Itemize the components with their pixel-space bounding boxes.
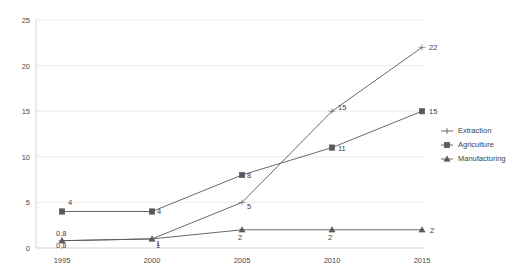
agriculture-point-2000 — [149, 209, 154, 214]
agriculture-label-2015: 15 — [429, 107, 437, 116]
legend-item-agriculture[interactable]: Agriculture — [441, 140, 494, 149]
manufacturing-label-2000: 1 — [156, 241, 160, 250]
y-tick-20: 20 — [22, 62, 30, 71]
agriculture-point-2010 — [329, 145, 334, 150]
legend-label-manufacturing: Manufacturing — [458, 154, 506, 163]
manufacturing-label-1995: 0,8 — [56, 241, 66, 250]
x-tick-2015: 2015 — [414, 256, 431, 265]
series-manufacturing: 0,8 1 2 2 2 — [56, 226, 434, 250]
series-agriculture: 4 4 8 11 15 — [59, 107, 437, 216]
y-tick-5: 5 — [26, 198, 30, 207]
agriculture-point-2015 — [419, 109, 424, 114]
series-extraction: 0,8 1 5 15 22 — [56, 43, 437, 248]
chart-legend: Extraction Agriculture Manufacturing — [441, 126, 506, 163]
chart-canvas: 25 20 15 10 5 0 1995 2000 2005 2010 2015… — [0, 0, 521, 274]
legend-label-extraction: Extraction — [458, 126, 491, 135]
agriculture-label-2005: 8 — [247, 171, 251, 180]
gridlines — [36, 20, 425, 202]
legend-item-manufacturing[interactable]: Manufacturing — [441, 154, 506, 163]
y-tick-10: 10 — [22, 153, 30, 162]
extraction-label-2015: 22 — [429, 43, 437, 52]
y-tick-25: 25 — [22, 16, 30, 25]
agriculture-label-1995: 4 — [68, 198, 72, 207]
agriculture-label-2000: 4 — [157, 207, 161, 216]
x-tick-1995: 1995 — [54, 256, 71, 265]
x-tick-2005: 2005 — [234, 256, 251, 265]
manufacturing-label-2005: 2 — [238, 233, 242, 242]
y-tick-0: 0 — [26, 244, 30, 253]
manufacturing-label-2015: 2 — [430, 226, 434, 235]
cross-marker-icon — [441, 128, 453, 134]
line-chart: 25 20 15 10 5 0 1995 2000 2005 2010 2015… — [0, 0, 521, 274]
agriculture-line — [62, 111, 422, 211]
x-tick-2000: 2000 — [144, 256, 161, 265]
agriculture-point-1995 — [59, 209, 64, 214]
y-tick-15: 15 — [22, 107, 30, 116]
agriculture-point-2005 — [239, 172, 244, 177]
manufacturing-label-2010: 2 — [328, 233, 332, 242]
extraction-label-2010: 15 — [338, 103, 346, 112]
x-tick-2010: 2010 — [324, 256, 341, 265]
legend-item-extraction[interactable]: Extraction — [441, 126, 491, 135]
legend-label-agriculture: Agriculture — [458, 140, 494, 149]
agriculture-label-2010: 11 — [338, 144, 346, 153]
extraction-label-1995: 0,8 — [56, 229, 66, 238]
square-marker-icon — [441, 142, 453, 147]
extraction-label-2005: 5 — [247, 202, 251, 211]
triangle-marker-icon — [441, 156, 453, 161]
